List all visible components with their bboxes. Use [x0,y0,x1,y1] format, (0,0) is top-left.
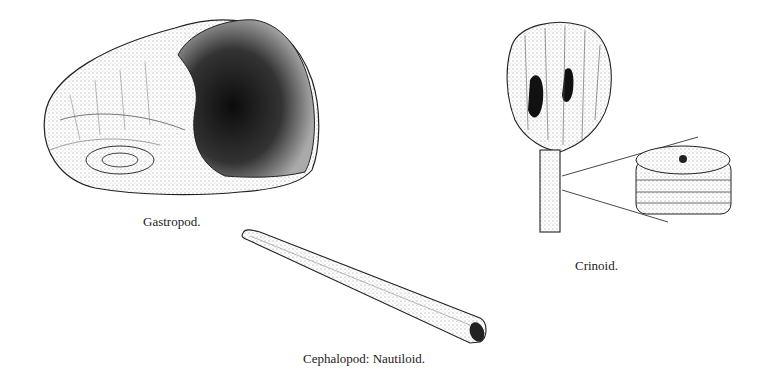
nautiloid-drawing [242,230,487,344]
crinoid-label: Crinoid. [575,258,618,274]
crinoid-stem-segment-detail [636,146,731,214]
gastropod-drawing [44,20,319,195]
fossil-illustrations [0,0,763,384]
nautiloid-label: Cephalopod: Nautiloid. [303,351,425,367]
crinoid-drawing [507,22,731,232]
gastropod-label: Gastropod. [143,214,200,230]
